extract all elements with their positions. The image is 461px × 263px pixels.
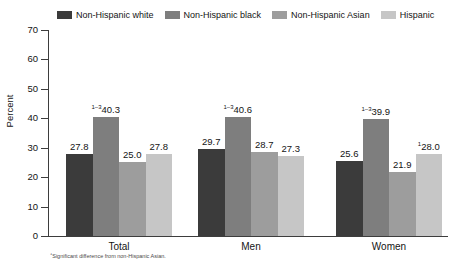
chart-footnote: 1Significant difference from non-Hispani… [50,253,450,260]
y-tick-50 [41,89,48,90]
significance-marker: 1–3 [361,105,371,111]
y-tick-label-30: 30 [4,143,38,153]
bar-women-non-hispanic-black: 1–339.9 [363,119,390,236]
chart-figure: Non-Hispanic white Non-Hispanic black No… [0,0,461,263]
bar-value-label: 28.7 [254,139,275,150]
y-tick-label-0: 0 [4,231,38,241]
bar-women-hispanic: 128.0 [416,154,443,236]
bar-women-non-hispanic-white: 25.6 [336,161,363,236]
bar-value-label: 25.0 [122,149,143,160]
plot-area: 27.81–340.325.027.829.71–340.628.727.325… [48,30,446,236]
significance-marker: 1–3 [223,103,233,109]
y-tick-label-60: 60 [4,54,38,64]
y-tick-label-wrap-10: 10 [0,202,38,212]
bar-value-label: 1–340.6 [222,104,253,115]
y-axis-title: Percent [5,83,15,139]
y-tick-70 [41,30,48,31]
legend-swatch-non-hispanic-white [57,11,72,19]
bar-total-non-hispanic-black: 1–340.3 [93,117,120,236]
bar-total-hispanic: 27.8 [146,154,173,236]
y-tick-label-70: 70 [4,25,38,35]
x-tick-label-men: Men [198,241,304,252]
y-tick-label-wrap-0: 0 [0,231,38,241]
bar-value-label: 1–339.9 [360,106,391,117]
bar-value-label: 128.0 [417,141,441,152]
legend-item-hispanic: Hispanic [381,10,435,20]
legend-item-non-hispanic-white: Non-Hispanic white [57,10,154,20]
y-tick-label-wrap-30: 30 [0,143,38,153]
bar-value-label: 25.6 [339,148,360,159]
legend-label-non-hispanic-white: Non-Hispanic white [76,10,154,20]
bar-men-non-hispanic-black: 1–340.6 [225,117,252,236]
bar-group-total: 27.81–340.325.027.8 [66,30,172,236]
y-tick-label-wrap-70: 70 [0,25,38,35]
bar-men-hispanic: 27.3 [278,156,305,236]
bar-total-non-hispanic-asian: 25.0 [119,162,146,236]
legend-label-hispanic: Hispanic [400,10,435,20]
bar-women-non-hispanic-asian: 21.9 [389,172,416,236]
bar-group-women: 25.61–339.921.9128.0 [336,30,442,236]
bar-value-label: 21.9 [392,159,413,170]
y-tick-label-20: 20 [4,172,38,182]
legend-item-non-hispanic-asian: Non-Hispanic Asian [272,10,370,20]
legend-swatch-non-hispanic-asian [272,11,287,19]
y-tick-label-wrap-60: 60 [0,54,38,64]
bar-group-men: 29.71–340.628.727.3 [198,30,304,236]
x-tick-label-women: Women [336,241,442,252]
chart-legend: Non-Hispanic white Non-Hispanic black No… [57,8,453,21]
legend-label-non-hispanic-asian: Non-Hispanic Asian [291,10,370,20]
bar-value-label: 27.8 [149,141,170,152]
y-tick-60 [41,59,48,60]
bar-value-label: 29.7 [201,136,222,147]
legend-item-non-hispanic-black: Non-Hispanic black [165,10,262,20]
y-tick-0 [41,236,48,237]
bar-value-label: 27.8 [69,141,90,152]
y-tick-label-wrap-20: 20 [0,172,38,182]
legend-swatch-hispanic [381,11,396,19]
significance-marker: 1–3 [91,104,101,110]
bar-value-label: 1–340.3 [90,104,121,115]
significance-marker: 1 [418,140,421,146]
bar-total-non-hispanic-white: 27.8 [66,154,93,236]
bar-men-non-hispanic-asian: 28.7 [251,152,278,236]
legend-label-non-hispanic-black: Non-Hispanic black [184,10,262,20]
y-tick-40 [41,118,48,119]
x-axis-line [48,236,448,237]
y-tick-20 [41,177,48,178]
bar-value-label: 27.3 [281,143,302,154]
bar-men-non-hispanic-white: 29.7 [198,149,225,236]
x-tick-label-total: Total [66,241,172,252]
legend-swatch-non-hispanic-black [165,11,180,19]
y-tick-label-10: 10 [4,202,38,212]
footnote-text: Significant difference from non-Hispanic… [52,253,166,259]
y-tick-30 [41,148,48,149]
y-tick-10 [41,207,48,208]
